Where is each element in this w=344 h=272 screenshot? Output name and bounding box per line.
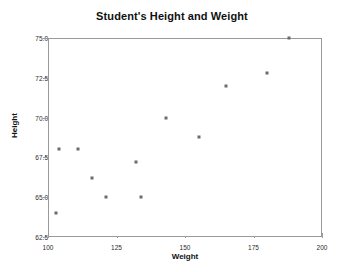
data-point	[90, 177, 93, 180]
data-point	[225, 84, 228, 87]
x-tick-label: 100	[28, 244, 68, 251]
data-point	[164, 116, 167, 119]
scatter-plot-figure: Student's Height and Weight 62.565.067.5…	[0, 0, 344, 272]
data-point	[77, 148, 80, 151]
data-point	[266, 72, 269, 75]
data-point	[55, 212, 58, 215]
data-points-layer	[48, 38, 322, 237]
data-point	[104, 196, 107, 199]
chart-title: Student's Height and Weight	[0, 10, 344, 22]
x-axis-label: Weight	[48, 252, 322, 261]
y-axis: 62.565.067.570.072.575.0	[0, 0, 48, 272]
x-tick-mark	[322, 233, 323, 238]
data-point	[288, 37, 291, 40]
data-point	[57, 148, 60, 151]
data-point	[197, 135, 200, 138]
x-tick-label: 150	[165, 244, 205, 251]
y-axis-label: Height	[10, 113, 19, 138]
x-tick-label: 125	[97, 244, 137, 251]
data-point	[134, 161, 137, 164]
x-tick-label: 175	[234, 244, 274, 251]
x-tick-label: 200	[302, 244, 342, 251]
data-point	[140, 196, 143, 199]
